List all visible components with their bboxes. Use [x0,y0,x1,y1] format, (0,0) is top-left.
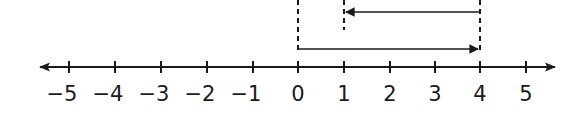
tick-label: −3 [139,82,170,106]
tick-label: 2 [383,82,396,106]
tick-label: −2 [185,82,216,106]
tick-labels: −5 −4 −3 −2 −1 0 1 2 3 4 5 [47,82,533,106]
tick-label: −4 [93,82,124,106]
tick-label: 0 [291,82,304,106]
tick-label: −1 [231,82,262,106]
tick-label: 3 [428,82,441,106]
tick-label: −5 [47,82,78,106]
tick-label: 1 [337,82,350,106]
number-line-diagram: −5 −4 −3 −2 −1 0 1 2 3 4 5 [0,0,579,115]
tick-label: 5 [519,82,532,106]
tick-label: 4 [473,82,486,106]
